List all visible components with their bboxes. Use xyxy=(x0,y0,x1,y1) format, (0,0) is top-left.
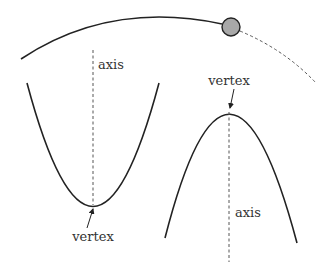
trajectory-arc xyxy=(21,17,316,83)
left-vertex-label: vertex xyxy=(71,229,114,244)
downward-parabola xyxy=(165,89,297,262)
right-vertex-arrow xyxy=(230,89,234,108)
upward-parabola xyxy=(27,50,159,228)
left-vertex-arrow xyxy=(87,209,93,228)
left-axis-label: axis xyxy=(98,57,124,72)
parabola-diagram: axis vertex vertex axis xyxy=(0,0,329,269)
right-axis-label: axis xyxy=(235,205,261,220)
projectile-ball xyxy=(222,18,240,36)
right-vertex-label: vertex xyxy=(207,73,250,88)
